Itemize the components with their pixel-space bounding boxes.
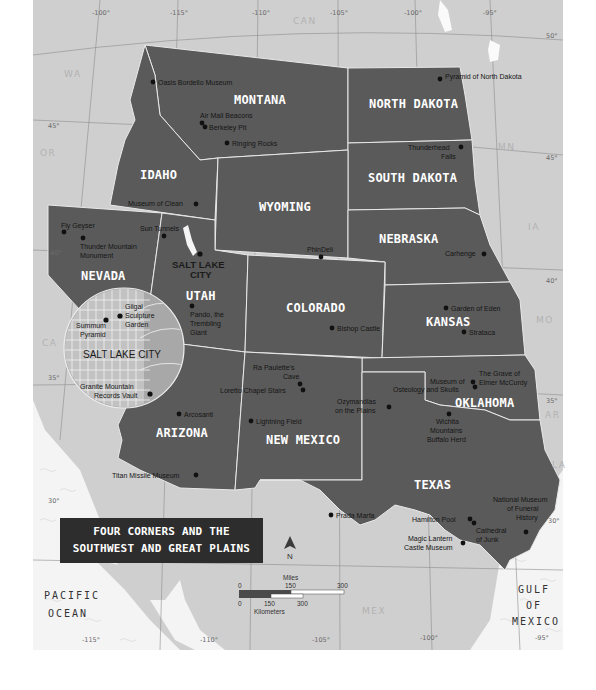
poi-lightning-field[interactable]: Lightning Field bbox=[256, 418, 302, 426]
poi-marker[interactable] bbox=[62, 230, 67, 235]
poi-pando[interactable]: Pando, the bbox=[190, 311, 224, 318]
poi-pando-2[interactable]: Trembling bbox=[190, 320, 221, 328]
poi-magic-lantern-castle-museum-2[interactable]: Castle Museum bbox=[404, 544, 453, 551]
poi-ra-paulettes-cave[interactable]: Ra Paulette's bbox=[253, 364, 295, 371]
region-iowa: IA bbox=[528, 222, 540, 232]
poi-national-museum-funeral-history-3[interactable]: History bbox=[516, 514, 538, 522]
poi-marker[interactable] bbox=[203, 125, 208, 130]
poi-wichita-mountains[interactable]: Wichita bbox=[436, 418, 459, 425]
poi-marker[interactable] bbox=[468, 517, 473, 522]
map-title-line-1: FOUR CORNERS AND THE bbox=[60, 523, 263, 540]
inset-gilgal-sculpture-garden-3[interactable]: Garden bbox=[125, 321, 148, 328]
lat-label: 45° bbox=[48, 122, 60, 130]
poi-pando-3[interactable]: Giant bbox=[190, 329, 207, 336]
poi-ringing-rocks[interactable]: Ringing Rocks bbox=[232, 140, 278, 148]
state-label-new-mexico: NEW MEXICO bbox=[266, 433, 340, 447]
poi-marker[interactable] bbox=[482, 252, 487, 257]
poi-marker[interactable] bbox=[524, 530, 529, 535]
lat-label: 40° bbox=[546, 277, 558, 285]
poi-thunder-mountain-monument[interactable]: Thunder Mountain bbox=[80, 243, 137, 250]
poi-marker[interactable] bbox=[298, 382, 303, 387]
poi-loretto-chapel-stairs[interactable]: Loretto Chapel Stairs bbox=[220, 387, 286, 395]
poi-marker[interactable] bbox=[190, 304, 195, 309]
poi-marker[interactable] bbox=[194, 202, 199, 207]
poi-museum-of-osteology-2[interactable]: Osteology and Skulls bbox=[393, 386, 459, 394]
scale-miles-tick: 150 bbox=[285, 582, 296, 589]
poi-marker[interactable] bbox=[462, 330, 467, 335]
poi-hamilton-pool[interactable]: Hamilton Pool bbox=[412, 516, 456, 523]
lon-label: -110° bbox=[252, 9, 270, 17]
poi-marker[interactable] bbox=[81, 236, 86, 241]
poi-wichita-mountains-2[interactable]: Mountains bbox=[430, 427, 463, 434]
poi-air-mail-beacons[interactable]: Air Mail Beacons bbox=[200, 112, 253, 119]
inset-summum-pyramid[interactable]: Summum bbox=[76, 322, 106, 329]
poi-strataca[interactable]: Strataca bbox=[469, 329, 495, 336]
poi-marker[interactable] bbox=[194, 473, 199, 478]
poi-marker[interactable] bbox=[329, 513, 334, 518]
poi-grave-of-elmer-mccurdy[interactable]: The Grave of bbox=[479, 370, 520, 377]
poi-marker[interactable] bbox=[387, 405, 392, 410]
poi-marker[interactable] bbox=[319, 255, 324, 260]
poi-marker[interactable] bbox=[459, 145, 464, 150]
poi-fly-geyser[interactable]: Fly Geyser bbox=[61, 222, 96, 230]
poi-thunderhead-falls[interactable]: Thunderhead bbox=[408, 144, 450, 151]
inset-summum-pyramid-2[interactable]: Pyramid bbox=[80, 331, 106, 339]
poi-wichita-mountains-3[interactable]: Buffalo Herd bbox=[427, 436, 466, 443]
poi-marker[interactable] bbox=[473, 385, 478, 390]
poi-thunderhead-falls-2[interactable]: Falls bbox=[441, 153, 456, 160]
poi-berkeley-pit[interactable]: Berkeley Pit bbox=[209, 124, 246, 132]
poi-marker[interactable] bbox=[472, 521, 477, 526]
poi-pyramid-of-north-dakota[interactable]: Pyramid of North Dakota bbox=[445, 73, 522, 81]
poi-marker[interactable] bbox=[461, 541, 466, 546]
poi-grave-of-elmer-mccurdy-2[interactable]: Elmer McCurdy bbox=[479, 379, 528, 387]
city-marker-salt-lake-city[interactable] bbox=[197, 251, 202, 256]
poi-ozymandias[interactable]: Ozymandias bbox=[337, 398, 376, 406]
poi-garden-of-eden[interactable]: Garden of Eden bbox=[451, 305, 501, 312]
poi-marker[interactable] bbox=[225, 141, 230, 146]
map: -100° -115° -110° -105° -100° -95° -115°… bbox=[0, 0, 596, 690]
lon-label: -100° bbox=[420, 634, 438, 642]
poi-magic-lantern-castle-museum[interactable]: Magic Lantern bbox=[408, 535, 452, 543]
poi-carhenge[interactable]: Carhenge bbox=[445, 250, 476, 258]
inset-granite-mountain-records-vault[interactable]: Granite Mountain bbox=[80, 383, 134, 390]
lon-label: -115° bbox=[82, 636, 100, 644]
poi-titan-missile-museum[interactable]: Titan Missile Museum bbox=[112, 472, 180, 479]
inset-granite-mountain-records-vault-2[interactable]: Records Vault bbox=[94, 392, 138, 399]
poi-museum-of-clean[interactable]: Museum of Clean bbox=[128, 200, 183, 207]
poi-sun-tunnels[interactable]: Sun Tunnels bbox=[140, 225, 179, 232]
poi-marker[interactable] bbox=[471, 380, 476, 385]
poi-national-museum-funeral-history-2[interactable]: of Funeral bbox=[507, 505, 539, 512]
poi-marker[interactable] bbox=[444, 306, 449, 311]
poi-marker[interactable] bbox=[301, 388, 306, 393]
lon-label: -95° bbox=[483, 9, 497, 17]
poi-phindeli[interactable]: PhinDeli bbox=[307, 246, 334, 253]
poi-oasis-bordello-museum[interactable]: Oasis Bordello Museum bbox=[158, 79, 232, 86]
poi-marker[interactable] bbox=[151, 80, 156, 85]
poi-marker[interactable] bbox=[330, 326, 335, 331]
inset-poi-marker[interactable] bbox=[147, 391, 152, 396]
poi-national-museum-funeral-history[interactable]: National Museum bbox=[493, 496, 548, 503]
poi-marker[interactable] bbox=[447, 412, 452, 417]
poi-ozymandias-2[interactable]: on the Plains bbox=[335, 407, 376, 414]
poi-arcosanti[interactable]: Arcosanti bbox=[184, 411, 214, 418]
poi-prada-marfa[interactable]: Prada Marfa bbox=[336, 512, 375, 519]
poi-marker[interactable] bbox=[249, 419, 254, 424]
poi-marker[interactable] bbox=[177, 412, 182, 417]
ocean-label-gulf: GULF bbox=[518, 584, 550, 595]
salt-lake-city-inset[interactable]: Gilgal Sculpture Garden Summum Pyramid S… bbox=[64, 288, 185, 408]
inset-gilgal-sculpture-garden-2[interactable]: Sculpture bbox=[125, 312, 155, 320]
poi-marker[interactable] bbox=[438, 77, 443, 82]
poi-marker[interactable] bbox=[162, 234, 167, 239]
poi-marker[interactable] bbox=[200, 121, 205, 126]
poi-bishop-castle[interactable]: Bishop Castle bbox=[337, 325, 380, 333]
inset-poi-marker[interactable] bbox=[117, 313, 122, 318]
lat-label: 30° bbox=[48, 497, 60, 505]
poi-ra-paulettes-cave-2[interactable]: Cave bbox=[283, 373, 299, 380]
poi-thunder-mountain-monument-2[interactable]: Monument bbox=[80, 252, 113, 259]
region-washington: WA bbox=[64, 69, 82, 79]
inset-gilgal-sculpture-garden[interactable]: Gilgal bbox=[125, 303, 143, 311]
poi-museum-of-osteology[interactable]: Museum of bbox=[430, 378, 465, 385]
poi-cathedral-of-junk[interactable]: Cathedral bbox=[476, 527, 507, 534]
poi-cathedral-of-junk-2[interactable]: of Junk bbox=[476, 536, 499, 543]
scale-km-dark bbox=[239, 594, 271, 598]
